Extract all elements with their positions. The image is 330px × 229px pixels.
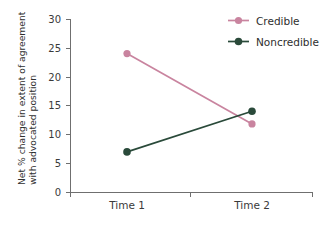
legend-label-noncredible: Noncredible — [256, 36, 319, 48]
line-chart: 0 5 10 15 20 25 30 Net % change in exten… — [0, 0, 330, 229]
series-noncredible-point-time-2 — [248, 108, 256, 116]
y-axis-title-line-2: with advocated position — [27, 75, 38, 185]
y-axis-title-line-1: Net % change in extent of agreement — [16, 11, 27, 185]
x-tick-label-time-2: Time 2 — [233, 199, 270, 211]
y-tick-label-20: 20 — [48, 72, 61, 83]
series-credible-point-time-1 — [123, 50, 130, 57]
y-tick-label-0: 0 — [55, 187, 61, 198]
legend-swatch-marker-noncredible — [235, 38, 243, 46]
y-tick-label-10: 10 — [48, 129, 61, 140]
x-tick-label-time-1: Time 1 — [108, 199, 145, 211]
y-tick-label-5: 5 — [55, 158, 61, 169]
series-noncredible-point-time-1 — [123, 148, 131, 156]
y-tick-label-25: 25 — [48, 43, 61, 54]
series-credible-point-time-2 — [248, 120, 255, 127]
chart-background — [0, 0, 330, 229]
y-tick-label-30: 30 — [48, 14, 61, 25]
legend-label-credible: Credible — [256, 15, 300, 27]
legend-swatch-marker-credible — [235, 17, 242, 24]
y-tick-label-15: 15 — [48, 100, 61, 111]
chart-canvas: 0 5 10 15 20 25 30 Net % change in exten… — [0, 0, 330, 229]
